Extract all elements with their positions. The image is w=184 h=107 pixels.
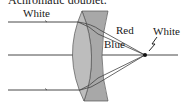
pointer-arrow-icon — [149, 37, 157, 51]
focal-point — [143, 53, 147, 57]
incoming-white-label: White — [23, 8, 50, 19]
red-label: Red — [116, 25, 134, 36]
blue-label: Blue — [104, 39, 125, 50]
focus-white-label: White — [153, 26, 180, 37]
